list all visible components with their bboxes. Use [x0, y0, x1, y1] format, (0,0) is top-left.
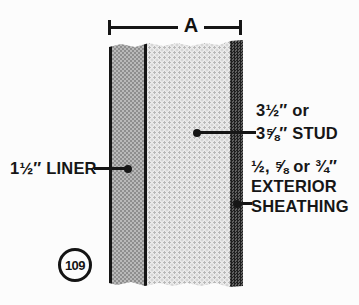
- stud-callout-line1: 3½″ or: [256, 99, 338, 122]
- dimension-line-right-segment: [204, 26, 241, 29]
- exterior-sheathing-layer: [230, 40, 243, 287]
- figure-number-badge: 109: [58, 248, 92, 282]
- stud-leader-line: [199, 131, 256, 134]
- dimension-line-left-segment: [110, 26, 178, 29]
- liner-layer: [112, 40, 144, 287]
- stud-callout-label: 3½″ or 3⅝″ STUD: [256, 99, 338, 145]
- sheathing-callout-line3: SHEATHING: [251, 196, 349, 216]
- stud-callout-line2: 3⅝″ STUD: [256, 122, 338, 145]
- sheathing-callout-label: ½, ⅝ or ¾″ EXTERIOR SHEATHING: [251, 156, 349, 216]
- sheathing-leader-dot: [233, 200, 241, 208]
- liner-callout-label: 1½″ LINER: [10, 158, 95, 178]
- wall-cross-section: [109, 40, 243, 287]
- dimension-tick-right: [239, 20, 242, 35]
- figure-number-text: 109: [65, 258, 85, 273]
- sheathing-callout-line1: ½, ⅝ or ¾″: [251, 156, 349, 176]
- sheathing-callout-line2: EXTERIOR: [251, 176, 349, 196]
- dimension-label: A: [178, 15, 204, 35]
- stud-leader-dot: [193, 129, 201, 137]
- stud-layer: [147, 40, 230, 287]
- liner-leader-dot: [124, 165, 132, 173]
